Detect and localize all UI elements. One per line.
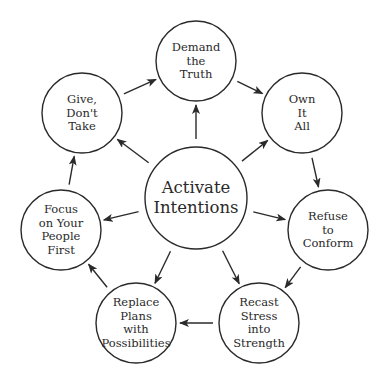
node-label-line: into — [248, 323, 271, 337]
node-label-line: Demand — [172, 41, 221, 55]
arrow-activate-to-give — [117, 139, 148, 162]
arrow-activate-to-own — [242, 141, 268, 162]
node-label-refuse: RefusetoConform — [303, 210, 354, 251]
arrow-activate-to-focus — [104, 212, 139, 220]
node-label-replace: ReplacePlanswithPossibilities — [101, 296, 170, 350]
node-label-line: People — [42, 230, 81, 244]
node-label-line: Replace — [113, 296, 160, 310]
arrow-replace-to-focus — [89, 264, 108, 287]
node-label-line: with — [123, 323, 149, 337]
node-label-line: Strength — [233, 337, 285, 351]
arrow-demand-to-own — [237, 81, 262, 93]
node-label-line: Refuse — [308, 210, 348, 224]
node-label-give: Give,Don'tTake — [66, 93, 97, 134]
node-label-line: Possibilities — [101, 337, 170, 351]
arrow-activate-to-recast — [223, 251, 240, 284]
node-label-line: Give, — [67, 93, 97, 107]
arrow-focus-to-give — [69, 156, 74, 184]
node-label-line: It — [297, 106, 306, 120]
node-label-own: OwnItAll — [289, 93, 316, 134]
arrow-own-to-refuse — [312, 158, 319, 187]
arrow-refuse-to-recast — [285, 267, 300, 288]
node-label-demand: DemandtheTruth — [172, 41, 221, 82]
node-label-line: Stress — [241, 310, 278, 324]
node-label-line: the — [187, 54, 206, 68]
node-label-line: Recast — [239, 296, 278, 310]
node-label-focus: Focuson YourPeopleFirst — [39, 203, 83, 257]
node-label-line: to — [322, 223, 334, 237]
node-label-line: Intentions — [153, 198, 238, 218]
node-label-line: First — [47, 244, 75, 258]
node-label-line: on Your — [39, 217, 83, 231]
node-label-recast: RecastStressintoStrength — [233, 296, 285, 350]
node-label-line: Don't — [66, 106, 97, 120]
node-label-line: Take — [68, 120, 95, 134]
node-label-line: Activate — [162, 178, 231, 198]
node-label-line: All — [294, 120, 310, 134]
node-label-line: Conform — [303, 237, 354, 251]
node-label-line: Focus — [44, 203, 78, 217]
node-label-line: Plans — [120, 310, 152, 324]
arrow-give-to-demand — [124, 79, 156, 94]
node-label-line: Own — [289, 93, 316, 107]
arrow-activate-to-replace — [155, 251, 171, 283]
arrow-activate-to-refuse — [253, 212, 285, 220]
node-label-line: Truth — [180, 68, 213, 82]
node-label-activate: ActivateIntentions — [153, 178, 238, 218]
